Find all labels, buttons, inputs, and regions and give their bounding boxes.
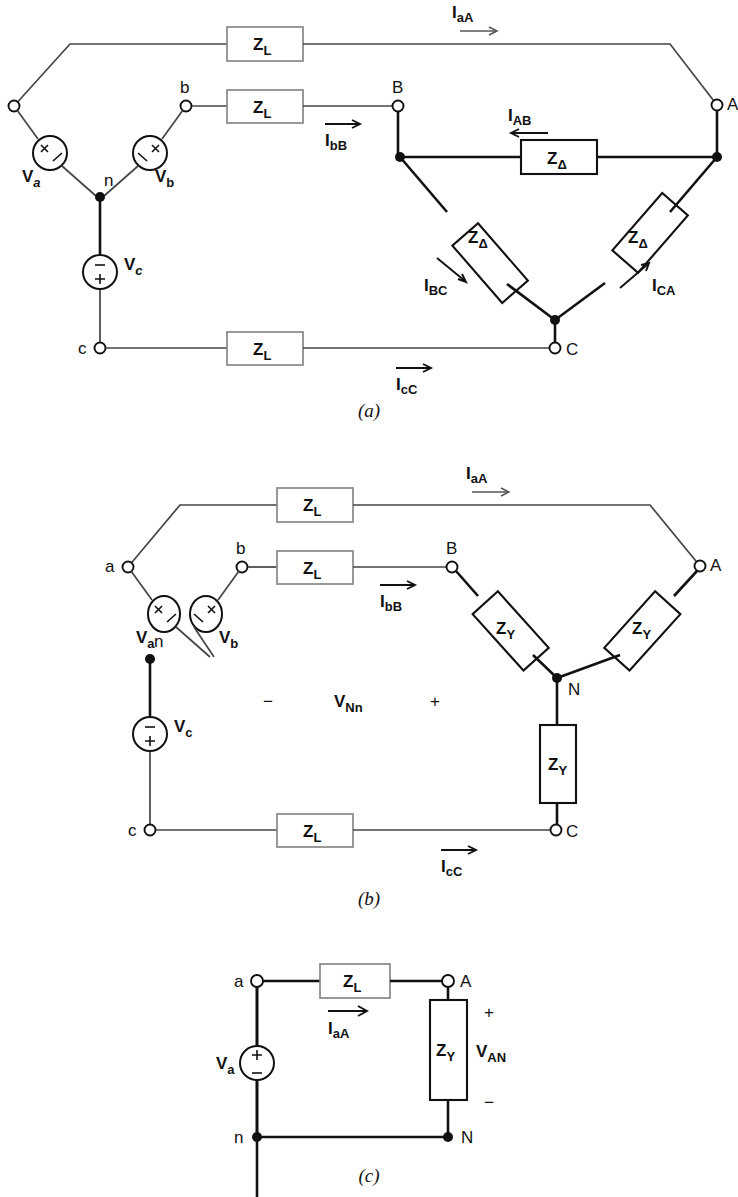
VAN-plus-sign: + (484, 1003, 494, 1022)
current-IaA: IaA (466, 464, 509, 496)
node-a-label: a (105, 557, 115, 576)
svg-text:IcC: IcC (441, 857, 463, 879)
VNn-plus-sign: + (430, 692, 440, 711)
figure-a-canvas: ZL IaA Va b ZL IbB (0, 0, 738, 435)
node-b-label: b (180, 78, 189, 97)
VAN-minus-sign: − (484, 1093, 494, 1112)
svg-text:ICA: ICA (652, 276, 676, 298)
node-B-label: B (392, 78, 403, 97)
caption-c: (c) (358, 1165, 379, 1187)
line-bB (248, 551, 447, 584)
node-n-dot (252, 1132, 262, 1142)
figure-c-canvas: a ZL IaA A Va ZY + VAN − (0, 930, 738, 1197)
node-a-label: a (234, 972, 244, 991)
impedance-ZY-BN (456, 571, 557, 678)
source-Va-label: Va (22, 167, 41, 190)
caption-b: (b) (358, 888, 380, 910)
node-A-terminal[interactable] (695, 561, 706, 572)
node-A-terminal[interactable] (442, 975, 454, 987)
current-IcC: IcC (396, 364, 431, 397)
node-B-label: B (446, 539, 457, 558)
node-a-terminal[interactable] (251, 975, 263, 987)
line-cC (106, 332, 550, 365)
node-N-dot (443, 1132, 453, 1142)
node-B-terminal[interactable] (393, 101, 404, 112)
caption-a: (a) (358, 400, 380, 422)
node-B-terminal[interactable] (447, 562, 458, 573)
current-IAB: IAB (508, 106, 548, 137)
node-c-terminal[interactable] (145, 825, 156, 836)
node-N-label: N (461, 1128, 473, 1147)
node-n-label: n (104, 171, 113, 190)
impedance-ZY-AN (557, 571, 697, 678)
node-c-terminal[interactable] (95, 343, 106, 354)
current-IaA: IaA (452, 3, 497, 35)
svg-text:IaA: IaA (328, 1019, 350, 1041)
node-C-terminal[interactable] (551, 825, 562, 836)
source-Vc (133, 659, 167, 830)
node-N-label: N (568, 680, 580, 699)
node-C-label: C (566, 822, 578, 841)
current-IbB: IbB (380, 581, 415, 614)
svg-text:IbB: IbB (380, 592, 402, 614)
voltage-VAN: + VAN − (476, 1003, 506, 1112)
figure-a: ZL IaA Va b ZL IbB (0, 0, 738, 435)
svg-text:IaA: IaA (466, 464, 488, 486)
current-IBC: IBC (424, 258, 466, 298)
node-c-label: c (78, 339, 87, 358)
neutral-voltage-VNn: − VNn + (263, 692, 440, 715)
VNn-label: VNn (334, 692, 363, 715)
svg-text:IAB: IAB (508, 106, 532, 128)
node-C-terminal[interactable] (550, 343, 561, 354)
line-bB (192, 90, 393, 123)
svg-text:IbB: IbB (325, 131, 347, 153)
node-A-label: A (727, 95, 738, 114)
current-ICA: ICA (620, 263, 676, 298)
figure-b: ZL IaA a Va b ZL IbB (0, 450, 738, 920)
source-Va-label: Va (216, 1054, 235, 1077)
svg-text:IcC: IcC (396, 375, 418, 397)
source-Va (240, 987, 274, 1197)
line-aA (14, 27, 717, 106)
node-A-terminal[interactable] (712, 100, 723, 111)
source-Vb-label: Vb (219, 628, 238, 651)
source-Vc (83, 197, 117, 348)
node-c-label: c (128, 821, 137, 840)
node-C-label: C (566, 340, 578, 359)
node-A-label: A (710, 556, 722, 575)
VNn-minus-sign: − (263, 692, 273, 711)
source-Vc-label: Vc (124, 255, 143, 278)
svg-text:IaA: IaA (452, 3, 474, 25)
source-Vb-label: Vb (155, 167, 174, 190)
line-aA (128, 488, 700, 567)
impedance-ZY-CN (540, 678, 576, 825)
figure-b-canvas: ZL IaA a Va b ZL IbB (0, 450, 738, 920)
svg-text:IBC: IBC (424, 276, 448, 298)
VAN-label: VAN (476, 1042, 506, 1065)
node-A-label: A (460, 972, 472, 991)
figure-c: a ZL IaA A Va ZY + VAN − (0, 930, 738, 1197)
current-IaA: IaA (328, 1006, 367, 1041)
source-Va-label: Va (136, 628, 155, 651)
current-IcC: IcC (441, 846, 476, 879)
line-cC (156, 814, 551, 847)
node-b-label: b (236, 539, 245, 558)
node-n-label: n (234, 1128, 243, 1147)
node-n-label: n (154, 632, 163, 651)
source-Vc-label: Vc (174, 717, 193, 740)
current-IbB: IbB (325, 120, 360, 153)
